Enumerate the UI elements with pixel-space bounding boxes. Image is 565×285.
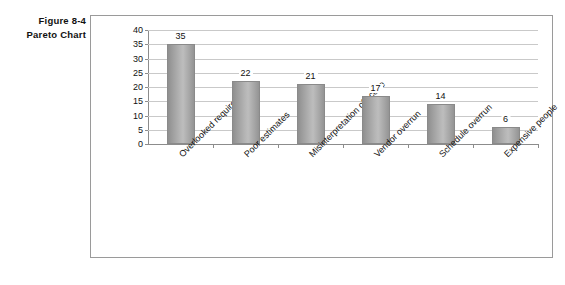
y-axis-tick-label: 20 [133,83,143,92]
plot-area: 0510152025303540 35Overlooked requiremen… [148,30,538,144]
x-axis-tick [278,144,279,148]
bar-value-label: 17 [368,84,382,93]
figure-caption-line-2: Pareto Chart [8,28,86,42]
y-axis-tick-mark [145,144,148,145]
bar-slot: 22Poor estimates [213,30,278,144]
chart-frame: 0510152025303540 35Overlooked requiremen… [90,15,553,258]
bar[interactable] [167,44,195,144]
y-axis-tick-label: 25 [133,68,143,77]
bar-value-label: 22 [238,69,252,78]
x-axis-tick [213,144,214,148]
bar[interactable] [232,81,260,144]
bar-slot: 6Expensive people [473,30,538,144]
y-axis-tick-label: 5 [138,125,143,134]
y-axis-tick-label: 30 [133,54,143,63]
bar-value-label: 21 [303,72,317,81]
x-axis-tick [473,144,474,148]
bar-slot: 14Schedule overrun [408,30,473,144]
bar[interactable] [297,84,325,144]
bar-value-label: 14 [433,92,447,101]
figure-caption: Figure 8-4 Pareto Chart [8,14,86,42]
y-axis-tick-label: 15 [133,97,143,106]
bar-slot: 35Overlooked requirement [148,30,213,144]
y-axis-tick-label: 10 [133,111,143,120]
y-axis-tick-label: 35 [133,40,143,49]
bar-value-label: 6 [501,115,510,124]
figure-caption-line-1: Figure 8-4 [8,14,86,28]
y-axis-tick-label: 0 [138,140,143,149]
x-axis-tick [408,144,409,148]
x-axis-tick [343,144,344,148]
y-axis-tick-label: 40 [133,26,143,35]
x-axis-tick [538,144,539,148]
bar-slot: 17Vendor overrun [343,30,408,144]
bar-slot: 21Misinterpretation of scope [278,30,343,144]
bar-value-label: 35 [173,32,187,41]
